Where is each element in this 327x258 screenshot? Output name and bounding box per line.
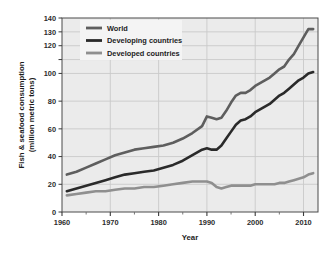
y-tick-label: 60 <box>48 125 56 134</box>
y-tick-label: 120 <box>44 41 56 50</box>
x-tick-label: 1970 <box>102 218 118 227</box>
chart-container: 020406080100120130140 196019701980199020… <box>0 0 327 258</box>
y-axis-title-line1: Fish & seafood consumption <box>17 61 26 168</box>
legend: WorldDeveloping countriesDeveloped count… <box>80 20 182 60</box>
legend-label-developed-countries: Developed countries <box>107 49 180 58</box>
y-axis-tick-labels: 020406080100120130140 <box>44 14 56 217</box>
x-tick-label: 1960 <box>54 218 70 227</box>
x-axis-title: Year <box>182 233 198 242</box>
x-axis-tick-labels: 196019701980199020002010 <box>54 218 312 227</box>
legend-label-developing-countries: Developing countries <box>107 36 182 45</box>
y-tick-label: 140 <box>44 14 56 23</box>
y-tick-label: 40 <box>48 152 56 161</box>
y-axis-title-line2: (million metric tons) <box>27 77 36 152</box>
x-tick-label: 1990 <box>199 218 215 227</box>
y-tick-label: 80 <box>48 97 56 106</box>
y-tick-label: 0 <box>52 208 56 217</box>
y-tick-label: 20 <box>48 180 56 189</box>
legend-label-world: World <box>107 24 128 33</box>
x-tick-label: 1980 <box>150 218 166 227</box>
x-tick-label: 2000 <box>247 218 263 227</box>
y-tick-label: 130 <box>44 28 56 37</box>
y-tick-label: 100 <box>44 69 56 78</box>
line-chart: 020406080100120130140 196019701980199020… <box>0 0 327 258</box>
x-tick-label: 2010 <box>295 218 311 227</box>
